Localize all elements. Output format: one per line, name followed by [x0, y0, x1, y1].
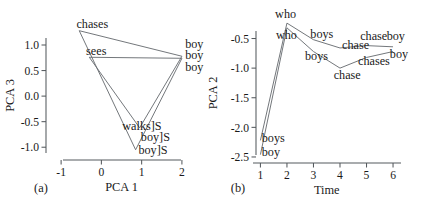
y-tick-label: -1.5: [231, 92, 250, 105]
x-tick-label: 5: [364, 169, 370, 182]
y-axis-title: PCA 3: [3, 79, 17, 112]
point-label: who: [276, 28, 297, 42]
x-tick-label: 2: [179, 166, 185, 179]
y-tick-label: -0.5: [21, 116, 40, 129]
x-tick-label: 1: [139, 166, 145, 179]
point-label: who: [275, 7, 296, 21]
point-label: chase: [334, 68, 361, 82]
x-tick-label: 6: [390, 169, 396, 182]
y-tick-label: -2.5: [231, 151, 250, 164]
panel-b-plot: -0.5-1.0-1.5-2.0-2.5PCA 2123456Timewhowh…: [205, 0, 423, 204]
point-label: boy]S: [138, 143, 167, 157]
y-tick-label: -0.5: [231, 33, 250, 46]
x-tick-label: 2: [284, 169, 290, 182]
y-tick-label: 1.0: [25, 39, 40, 52]
panel-a: 1.00.50.0-0.5-1.0PCA 3-1012PCA 1chasesse…: [0, 0, 212, 204]
panel-a-caption: (a): [34, 181, 48, 195]
y-tick-label: -1.0: [231, 62, 250, 75]
point-label: boys: [310, 27, 333, 41]
y-tick-label: 0.0: [25, 90, 40, 103]
point-label: boys: [262, 131, 285, 145]
y-tick-label: -1.0: [21, 141, 40, 154]
point-label: boy: [185, 60, 204, 74]
x-axis-title: PCA 1: [105, 180, 138, 194]
point-label: sees: [86, 44, 107, 58]
x-tick-label: 3: [311, 169, 317, 182]
panel-b: -0.5-1.0-1.5-2.0-2.5PCA 2123456Timewhowh…: [205, 0, 423, 204]
y-tick-label: 0.5: [25, 65, 40, 78]
point-label: chases: [76, 17, 108, 31]
y-axis-title: PCA 2: [206, 77, 220, 110]
x-tick-label: 4: [337, 169, 343, 182]
y-tick-label: -2.0: [231, 122, 250, 135]
panel-b-caption: (b): [231, 181, 245, 195]
point-label: boy: [390, 47, 409, 61]
point-label: chases: [358, 54, 390, 68]
point-label: chase: [360, 29, 387, 43]
x-axis-title: Time: [314, 183, 340, 197]
x-tick-label: 1: [258, 169, 264, 182]
point-label: boys: [305, 49, 328, 63]
x-tick-label: 0: [98, 166, 104, 179]
panel-a-plot: 1.00.50.0-0.5-1.0PCA 3-1012PCA 1chasesse…: [0, 0, 212, 204]
data-trace-sees-down: [89, 57, 139, 128]
figure-root: 1.00.50.0-0.5-1.0PCA 3-1012PCA 1chasesse…: [0, 0, 423, 204]
point-label: boy: [262, 145, 281, 159]
x-tick-label: -1: [56, 166, 66, 179]
point-label: boy: [387, 29, 406, 43]
